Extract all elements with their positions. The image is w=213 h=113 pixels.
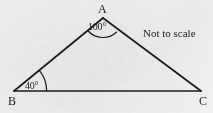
diagram-canvas: A B C 100° 40° Not to scale [0,0,213,113]
vertex-label-a: A [98,3,107,15]
angle-label-b: 40° [25,81,38,91]
vertex-label-b: B [8,95,16,107]
triangle-figure [0,0,213,113]
vertex-label-c: C [199,95,207,107]
angle-label-a: 100° [88,22,106,32]
not-to-scale-note: Not to scale [143,28,196,39]
angle-arc-B [39,70,47,91]
